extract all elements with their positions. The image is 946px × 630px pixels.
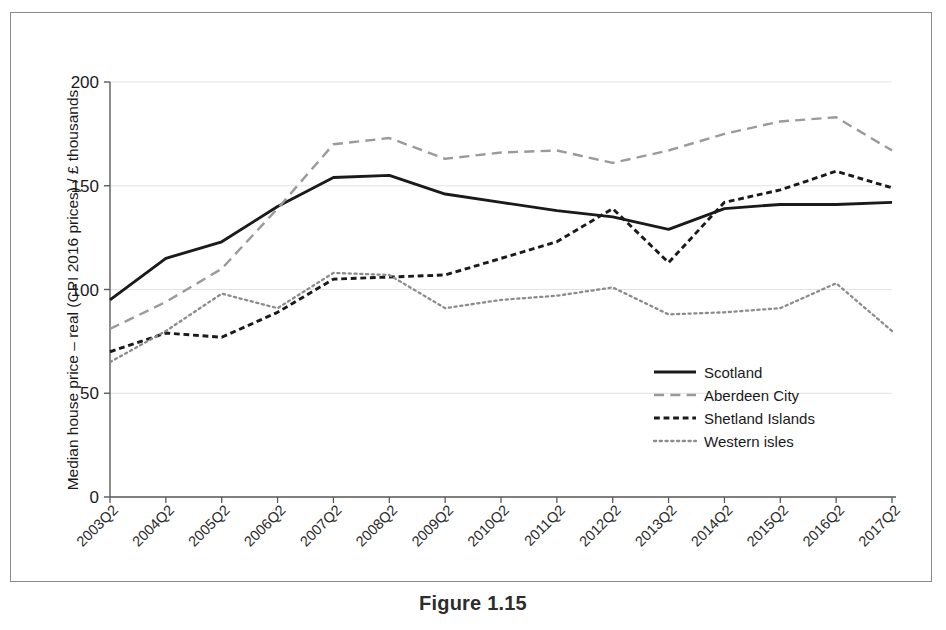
x-tick-label-2007Q2: 2007Q2 (297, 502, 345, 550)
x-tick-label-2010Q2: 2010Q2 (464, 502, 512, 550)
y-tick-label-50: 50 (80, 384, 99, 403)
x-tick-label-2016Q2: 2016Q2 (799, 502, 847, 550)
legend-label-shetland-islands: Shetland Islands (704, 410, 815, 427)
y-axis-title: Median house price – real (CPI 2016 pric… (64, 89, 81, 490)
x-tick-label-2012Q2: 2012Q2 (576, 502, 624, 550)
y-tick-label-0: 0 (90, 488, 99, 507)
x-tick-label-2017Q2: 2017Q2 (855, 502, 903, 550)
x-tick-label-2005Q2: 2005Q2 (185, 502, 233, 550)
x-axis: 2003Q22004Q22005Q22006Q22007Q22008Q22009… (73, 497, 903, 550)
x-tick-label-2008Q2: 2008Q2 (353, 502, 401, 550)
legend-label-western-isles: Western isles (704, 433, 794, 450)
x-tick-label-2014Q2: 2014Q2 (688, 502, 736, 550)
x-tick-label-2003Q2: 2003Q2 (73, 502, 121, 550)
x-tick-label-2011Q2: 2011Q2 (521, 502, 568, 549)
legend-label-scotland: Scotland (704, 364, 762, 381)
series-line-western-isles (110, 273, 892, 362)
x-tick-label-2015Q2: 2015Q2 (744, 502, 792, 550)
figure-page: 050100150200 2003Q22004Q22005Q22006Q2200… (0, 0, 946, 630)
x-tick-label-2009Q2: 2009Q2 (408, 502, 456, 550)
series-line-scotland (110, 175, 892, 300)
line-chart: 050100150200 2003Q22004Q22005Q22006Q2200… (0, 0, 946, 592)
x-tick-label-2004Q2: 2004Q2 (129, 502, 177, 550)
figure-caption: Figure 1.15 (0, 592, 946, 615)
chart-legend: ScotlandAberdeen CityShetland IslandsWes… (654, 364, 815, 450)
y-tick-label-200: 200 (71, 73, 99, 92)
x-tick-label-2013Q2: 2013Q2 (632, 502, 680, 550)
x-tick-label-2006Q2: 2006Q2 (241, 502, 289, 550)
series-line-aberdeen-city (110, 117, 892, 329)
data-series-group (110, 117, 892, 362)
legend-label-aberdeen-city: Aberdeen City (704, 387, 800, 404)
